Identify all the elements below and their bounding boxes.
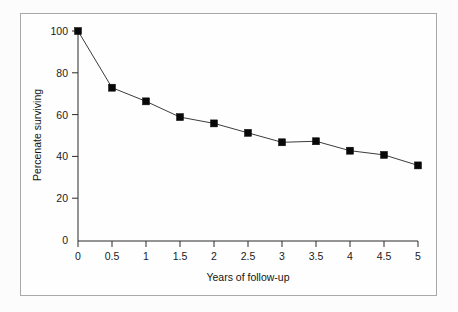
- y-tick-label-20: 20: [56, 192, 68, 204]
- y-tick-label-80: 80: [56, 67, 68, 79]
- data-point-markers: [75, 28, 422, 169]
- y-tick-label-100: 100: [50, 25, 68, 37]
- data-point: [381, 151, 388, 158]
- survival-chart: 100 80 60 40 20 0 0 0.5 1 1.5 2 2.5 3 3.…: [0, 0, 458, 312]
- y-tick-label-60: 60: [56, 109, 68, 121]
- x-tick-label-0p5: 0.5: [105, 250, 120, 262]
- data-point: [75, 28, 82, 35]
- y-tick-label-40: 40: [56, 150, 68, 162]
- y-axis-ticks: [72, 31, 78, 198]
- data-point: [143, 98, 150, 105]
- data-point: [211, 120, 218, 127]
- x-tick-label-0: 0: [75, 250, 81, 262]
- x-tick-label-1p5: 1.5: [173, 250, 188, 262]
- data-point: [177, 114, 184, 121]
- y-axis-title: Percenate surviving: [31, 89, 43, 181]
- x-tick-label-4p5: 4.5: [377, 250, 392, 262]
- figure-container: 100 80 60 40 20 0 0 0.5 1 1.5 2 2.5 3 3.…: [0, 0, 458, 312]
- data-point: [279, 139, 286, 146]
- x-tick-label-3p5: 3.5: [309, 250, 324, 262]
- data-point: [313, 138, 320, 145]
- x-axis-title: Years of follow-up: [206, 271, 289, 283]
- survival-curve: [78, 31, 418, 165]
- x-tick-label-2: 2: [211, 250, 217, 262]
- x-tick-label-2p5: 2.5: [241, 250, 256, 262]
- data-point: [109, 84, 116, 91]
- data-point: [245, 129, 252, 136]
- data-point: [415, 162, 422, 169]
- x-tick-label-3: 3: [279, 250, 285, 262]
- x-axis-ticks: [78, 241, 418, 247]
- y-tick-label-0: 0: [62, 234, 68, 246]
- x-tick-label-1: 1: [143, 250, 149, 262]
- x-tick-label-4: 4: [347, 250, 353, 262]
- x-tick-label-5: 5: [415, 250, 421, 262]
- data-point: [347, 147, 354, 154]
